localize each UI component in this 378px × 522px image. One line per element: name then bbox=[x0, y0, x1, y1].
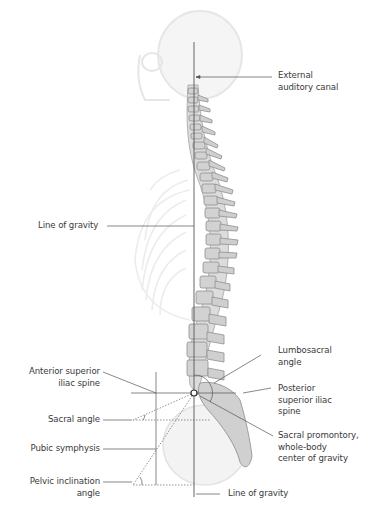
label-pelvic-inclination-angle: Pelvic inclination angle bbox=[10, 476, 100, 499]
ghost-ribcage bbox=[135, 170, 190, 320]
label-posterior-superior-iliac-spine: Posterior superior iliac spine bbox=[278, 383, 332, 418]
label-external-auditory-canal: External auditory canal bbox=[278, 70, 338, 93]
label-sacral-promontory: Sacral promontory, whole-body center of … bbox=[278, 430, 359, 465]
label-line-of-gravity-bottom: Line of gravity bbox=[228, 488, 288, 500]
label-pubic-symphysis: Pubic symphysis bbox=[10, 443, 100, 455]
label-lumbosacral-angle: Lumbosacral angle bbox=[278, 345, 332, 368]
center-of-gravity-point bbox=[191, 390, 197, 396]
label-anterior-superior-iliac-spine: Anterior superior iliac spine bbox=[10, 366, 100, 389]
label-line-of-gravity: Line of gravity bbox=[38, 220, 98, 232]
label-sacral-angle: Sacral angle bbox=[10, 414, 100, 426]
